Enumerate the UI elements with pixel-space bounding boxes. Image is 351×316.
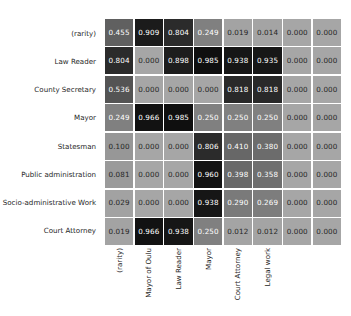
heatmap-cell: 0.000	[313, 161, 341, 188]
row-label: Public administration	[0, 160, 101, 188]
heatmap-cell: 0.898	[164, 47, 192, 74]
heatmap-cell: 0.909	[135, 19, 163, 46]
heatmap-cell: 0.269	[253, 190, 281, 217]
heatmap-cell: 0.290	[224, 190, 252, 217]
heatmap-cell: 0.250	[253, 104, 281, 131]
heatmap-cell: 0.000	[313, 133, 341, 160]
column-label: (rarity)	[105, 247, 133, 313]
row-label: Socio-administrative Work	[0, 189, 101, 217]
heatmap-cell: 0.000	[283, 218, 311, 245]
heatmap-cell: 0.806	[194, 133, 222, 160]
heatmap-cell: 0.000	[135, 47, 163, 74]
column-label: Mayor of Oulu	[135, 247, 163, 313]
row-axis-labels: (rarity)Law ReaderCounty SecretaryMayorS…	[0, 19, 101, 245]
heatmap-cell: 0.410	[224, 133, 252, 160]
heatmap-cell: 0.000	[164, 161, 192, 188]
heatmap-cell: 0.250	[224, 104, 252, 131]
column-label	[313, 247, 341, 313]
heatmap-cell: 0.000	[313, 76, 341, 103]
column-label: Court Attorney	[224, 247, 252, 313]
heatmap-cell: 0.938	[164, 218, 192, 245]
heatmap-cell: 0.019	[105, 218, 133, 245]
heatmap-cell: 0.536	[105, 76, 133, 103]
heatmap-cell: 0.250	[194, 218, 222, 245]
column-label-text: Court Attorney	[234, 248, 241, 300]
column-label-text: (rarity)	[116, 248, 123, 273]
heatmap-figure: (rarity)Law ReaderCounty SecretaryMayorS…	[0, 0, 351, 316]
row-label: Law Reader	[0, 47, 101, 75]
heatmap-cell: 0.398	[224, 161, 252, 188]
heatmap-cell: 0.985	[164, 104, 192, 131]
heatmap-cell: 0.012	[224, 218, 252, 245]
heatmap-cell: 0.966	[135, 104, 163, 131]
heatmap-cell: 0.000	[313, 190, 341, 217]
heatmap-cell: 0.014	[253, 19, 281, 46]
heatmap-cell: 0.000	[283, 76, 311, 103]
heatmap-cell: 0.081	[105, 161, 133, 188]
heatmap-cell: 0.966	[135, 218, 163, 245]
column-label: Legal work	[253, 247, 281, 313]
column-label-text: Legal work	[264, 248, 271, 286]
heatmap-cell: 0.000	[283, 161, 311, 188]
column-label-text: Mayor	[205, 248, 212, 270]
heatmap-cell: 0.029	[105, 190, 133, 217]
heatmap-cell: 0.000	[283, 19, 311, 46]
heatmap-cell: 0.249	[105, 104, 133, 131]
heatmap-grid: 0.4550.9090.8040.2490.0190.0140.0000.000…	[105, 19, 341, 245]
heatmap-cell: 0.000	[164, 190, 192, 217]
heatmap-cell: 0.938	[224, 47, 252, 74]
column-label	[283, 247, 311, 313]
heatmap-cell: 0.249	[194, 19, 222, 46]
heatmap-cell: 0.250	[194, 104, 222, 131]
column-label-text: Mayor of Oulu	[145, 248, 152, 298]
column-label: Mayor	[194, 247, 222, 313]
heatmap-cell: 0.358	[253, 161, 281, 188]
heatmap-cell: 0.000	[313, 104, 341, 131]
heatmap-cell: 0.938	[194, 190, 222, 217]
row-label: Mayor	[0, 104, 101, 132]
row-label: (rarity)	[0, 19, 101, 47]
heatmap-cell: 0.019	[224, 19, 252, 46]
heatmap-cell: 0.100	[105, 133, 133, 160]
heatmap-cell: 0.000	[164, 76, 192, 103]
column-label-text: Law Reader	[175, 248, 182, 289]
heatmap-cell: 0.818	[253, 76, 281, 103]
heatmap-cell: 0.000	[135, 161, 163, 188]
heatmap-cell: 0.935	[253, 47, 281, 74]
heatmap-cell: 0.000	[135, 133, 163, 160]
row-label: Court Attorney	[0, 217, 101, 245]
heatmap-cell: 0.000	[283, 104, 311, 131]
heatmap-cell: 0.455	[105, 19, 133, 46]
heatmap-cell: 0.000	[164, 133, 192, 160]
heatmap-cell: 0.000	[283, 47, 311, 74]
heatmap-cell: 0.804	[105, 47, 133, 74]
heatmap-cell: 0.000	[313, 19, 341, 46]
row-label: Statesman	[0, 132, 101, 160]
heatmap-cell: 0.000	[313, 47, 341, 74]
heatmap-cell: 0.380	[253, 133, 281, 160]
heatmap-cell: 0.000	[313, 218, 341, 245]
heatmap-cell: 0.000	[194, 76, 222, 103]
column-label: Law Reader	[164, 247, 192, 313]
heatmap-cell: 0.985	[194, 47, 222, 74]
heatmap-cell: 0.804	[164, 19, 192, 46]
heatmap-cell: 0.818	[224, 76, 252, 103]
heatmap-cell: 0.012	[253, 218, 281, 245]
column-axis-labels: (rarity)Mayor of OuluLaw ReaderMayorCour…	[105, 247, 341, 313]
heatmap-cell: 0.960	[194, 161, 222, 188]
heatmap-cell: 0.000	[283, 190, 311, 217]
row-label: County Secretary	[0, 76, 101, 104]
heatmap-cell: 0.000	[135, 190, 163, 217]
heatmap-cell: 0.000	[135, 76, 163, 103]
heatmap-cell: 0.000	[283, 133, 311, 160]
